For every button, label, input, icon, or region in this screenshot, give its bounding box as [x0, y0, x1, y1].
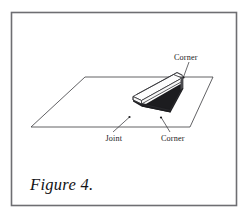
label-joint: Joint: [106, 134, 123, 143]
label-corner-bottom: Corner: [161, 134, 185, 143]
figure-page: Corner Joint Corner Figure 4.: [0, 0, 250, 219]
figure-caption: Figure 4.: [29, 175, 94, 194]
figure-illustration: Corner Joint Corner Figure 4.: [0, 0, 250, 219]
label-corner-top: Corner: [174, 53, 198, 62]
